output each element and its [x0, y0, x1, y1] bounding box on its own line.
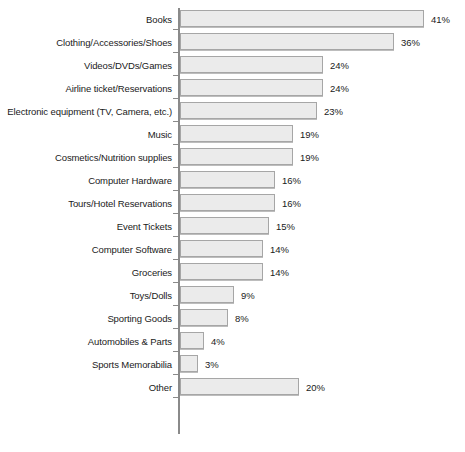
- bar-value-label: 36%: [395, 33, 420, 52]
- axis-tick: [173, 190, 179, 191]
- axis-tick: [173, 144, 179, 145]
- bar-container: 15%: [180, 217, 269, 236]
- category-label: Automobiles & Parts: [88, 330, 178, 353]
- bar-row: Airline ticket/Reservations24%: [0, 77, 465, 100]
- bar-value-label: 4%: [205, 332, 225, 351]
- bar-value-label: 14%: [264, 240, 289, 259]
- bar-container: 36%: [180, 33, 394, 52]
- bar: [180, 240, 263, 257]
- axis-tick: [173, 328, 179, 329]
- bar-row: Event Tickets15%: [0, 215, 465, 238]
- bar-container: 8%: [180, 309, 228, 328]
- category-label: Clothing/Accessories/Shoes: [56, 31, 178, 54]
- bar-container: 3%: [180, 355, 198, 374]
- bar-value-label: 3%: [199, 355, 219, 374]
- bar-value-label: 8%: [229, 309, 249, 328]
- bar-row: Groceries14%: [0, 261, 465, 284]
- bar-value-label: 9%: [235, 286, 255, 305]
- bar-value-label: 15%: [270, 217, 295, 236]
- bar-value-label: 19%: [294, 125, 319, 144]
- category-label: Books: [146, 8, 178, 31]
- category-label: Sporting Goods: [107, 307, 178, 330]
- bar-container: 14%: [180, 263, 263, 282]
- bar: [180, 217, 269, 234]
- bar-value-label: 24%: [324, 56, 349, 75]
- bar: [180, 148, 293, 165]
- category-label: Toys/Dolls: [130, 284, 178, 307]
- bar: [180, 102, 317, 119]
- bar-rows: Books41%Clothing/Accessories/Shoes36%Vid…: [0, 8, 465, 399]
- bar-row: Clothing/Accessories/Shoes36%: [0, 31, 465, 54]
- category-label: Other: [149, 376, 178, 399]
- bar-row: Cosmetics/Nutrition supplies19%: [0, 146, 465, 169]
- category-label: Cosmetics/Nutrition supplies: [55, 146, 178, 169]
- bar-value-label: 14%: [264, 263, 289, 282]
- category-label: Tours/Hotel Reservations: [68, 192, 178, 215]
- bar: [180, 10, 424, 27]
- bar: [180, 171, 275, 188]
- bar-container: 16%: [180, 171, 275, 190]
- bar-chart: Books41%Clothing/Accessories/Shoes36%Vid…: [0, 0, 465, 452]
- bar-container: 14%: [180, 240, 263, 259]
- bar-container: 23%: [180, 102, 317, 121]
- bar-container: 41%: [180, 10, 424, 29]
- axis-tick: [173, 259, 179, 260]
- bar-container: 20%: [180, 378, 299, 397]
- bar-row: Other20%: [0, 376, 465, 399]
- category-label: Computer Hardware: [88, 169, 178, 192]
- bar-row: Toys/Dolls9%: [0, 284, 465, 307]
- category-label: Electronic equipment (TV, Camera, etc.): [7, 100, 178, 123]
- bar-value-label: 16%: [276, 171, 301, 190]
- axis-tick: [173, 75, 179, 76]
- bar-container: 16%: [180, 194, 275, 213]
- bar-value-label: 41%: [425, 10, 450, 29]
- category-label: Sports Memorabilia: [92, 353, 178, 376]
- bar: [180, 194, 275, 211]
- bar: [180, 355, 198, 372]
- axis-tick: [173, 52, 179, 53]
- bar-container: 24%: [180, 79, 323, 98]
- bar-row: Automobiles & Parts4%: [0, 330, 465, 353]
- bar: [180, 286, 234, 303]
- category-label: Videos/DVDs/Games: [84, 54, 178, 77]
- bar: [180, 378, 299, 395]
- bar: [180, 263, 263, 280]
- bar: [180, 125, 293, 142]
- category-label: Groceries: [132, 261, 178, 284]
- bar-row: Videos/DVDs/Games24%: [0, 54, 465, 77]
- axis-tick: [173, 282, 179, 283]
- bar-container: 9%: [180, 286, 234, 305]
- bar: [180, 79, 323, 96]
- bar-value-label: 23%: [318, 102, 343, 121]
- axis-tick: [173, 29, 179, 30]
- plot-area: Books41%Clothing/Accessories/Shoes36%Vid…: [0, 0, 465, 452]
- category-label: Music: [148, 123, 178, 146]
- bar-row: Computer Hardware16%: [0, 169, 465, 192]
- bar-row: Sporting Goods8%: [0, 307, 465, 330]
- bar-value-label: 24%: [324, 79, 349, 98]
- axis-tick: [173, 397, 179, 398]
- bar-row: Electronic equipment (TV, Camera, etc.)2…: [0, 100, 465, 123]
- axis-tick: [173, 213, 179, 214]
- axis-tick: [173, 351, 179, 352]
- axis-tick: [173, 98, 179, 99]
- bar-value-label: 20%: [300, 378, 325, 397]
- bar-row: Sports Memorabilia3%: [0, 353, 465, 376]
- bar-container: 19%: [180, 125, 293, 144]
- axis-tick: [173, 121, 179, 122]
- bar-row: Computer Software14%: [0, 238, 465, 261]
- bar-container: 24%: [180, 56, 323, 75]
- axis-tick: [173, 374, 179, 375]
- bar: [180, 309, 228, 326]
- axis-tick: [173, 167, 179, 168]
- bar-row: Tours/Hotel Reservations16%: [0, 192, 465, 215]
- category-label: Airline ticket/Reservations: [65, 77, 178, 100]
- bar-container: 19%: [180, 148, 293, 167]
- axis-tick: [173, 236, 179, 237]
- bar-value-label: 16%: [276, 194, 301, 213]
- bar: [180, 33, 394, 50]
- category-label: Event Tickets: [117, 215, 178, 238]
- bar: [180, 332, 204, 349]
- bar: [180, 56, 323, 73]
- bar-value-label: 19%: [294, 148, 319, 167]
